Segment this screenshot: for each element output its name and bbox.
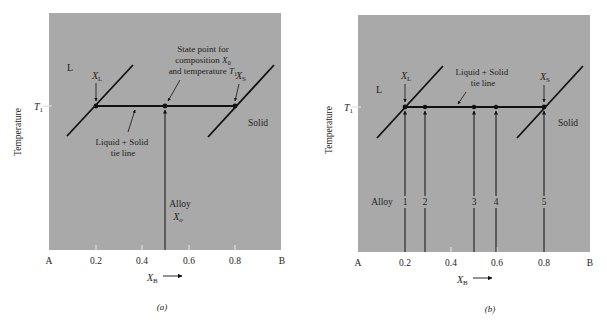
- t1-label-b: T1: [344, 102, 354, 115]
- svg-text:0.6: 0.6: [183, 256, 195, 266]
- x-tick-labels-b: A 0.2 0.4 0.6 0.8 B: [355, 258, 594, 268]
- svg-text:B: B: [587, 258, 593, 268]
- alloy-5-label: 5: [542, 197, 547, 207]
- point-alloy-4-b: [494, 105, 498, 109]
- svg-text:0.6: 0.6: [491, 258, 503, 268]
- svg-text:A: A: [46, 256, 53, 266]
- point-alloy-2-b: [423, 105, 427, 109]
- t1-label-a: T1: [34, 101, 44, 114]
- region-liquid-label-b: L: [376, 84, 382, 95]
- phase-diagram-figure: L XL XS Solid State point for compositio…: [0, 0, 607, 328]
- region-solid-label-a: Solid: [248, 118, 268, 128]
- point-xs-a: [233, 104, 238, 109]
- point-alloy-3-b: [472, 105, 476, 109]
- region-liquid-label-a: L: [67, 62, 73, 73]
- point-xs-b: [542, 105, 547, 110]
- svg-text:A: A: [355, 258, 362, 268]
- svg-text:0.4: 0.4: [136, 256, 148, 266]
- panel-a: L XL XS Solid State point for compositio…: [13, 13, 285, 312]
- state-point-annotation-a: State point for: [177, 44, 229, 54]
- alloy-3-label: 3: [472, 197, 477, 207]
- alloy-label-b: Alloy: [371, 197, 393, 207]
- y-axis-label-b: Temperature: [324, 106, 334, 154]
- svg-text:0.4: 0.4: [445, 258, 457, 268]
- x-axis-label-b: XB: [456, 274, 468, 287]
- alloy-1-label: 1: [403, 197, 408, 207]
- state-point-annotation-line2-a: composition X0: [175, 55, 231, 66]
- panel-label-a: (a): [157, 302, 168, 312]
- x-axis-label-a: XB: [146, 272, 158, 285]
- alloy-4-label: 4: [494, 197, 499, 207]
- svg-text:0.2: 0.2: [90, 256, 102, 266]
- svg-text:B: B: [279, 256, 285, 266]
- point-xl-a: [94, 104, 99, 109]
- svg-text:0.8: 0.8: [229, 256, 241, 266]
- alloy-2-label: 2: [423, 197, 428, 207]
- state-point-annotation-line3-a: and temperature T1: [169, 66, 238, 77]
- state-point-a: [163, 104, 168, 109]
- x-tick-labels-a: A 0.2 0.4 0.6 0.8 B: [46, 256, 286, 266]
- region-solid-label-b: Solid: [558, 118, 578, 128]
- y-axis-label-a: Temperature: [13, 108, 23, 156]
- alloy-label-a: Alloy: [169, 199, 191, 209]
- panel-label-b: (b): [485, 304, 496, 314]
- panel-b: L XL XS Solid Liquid + Solid tie line Al…: [324, 15, 593, 314]
- svg-text:0.8: 0.8: [538, 258, 550, 268]
- point-xl-b: [403, 105, 408, 110]
- svg-text:0.2: 0.2: [399, 258, 411, 268]
